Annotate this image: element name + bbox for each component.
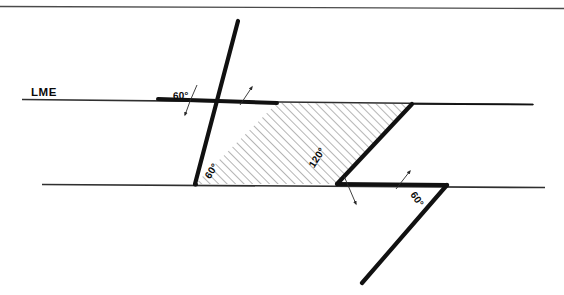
pointer-angle-bottom-middle-icon	[344, 176, 356, 204]
figure-canvas	[0, 0, 564, 295]
line-label-lme: LME	[31, 86, 57, 98]
lower-parallel-line	[42, 185, 545, 188]
upper-thick-segment-right	[412, 104, 533, 105]
page-top-rule	[0, 7, 564, 9]
right-transversal-lower-ray	[362, 185, 447, 283]
hatched-parallelogram-region	[195, 103, 412, 184]
lower-thick-segment	[337, 184, 447, 185]
angle-label-top-left: 60°	[173, 90, 189, 101]
geometry-figure: LME 60° 60° 120° 60°	[0, 0, 564, 295]
